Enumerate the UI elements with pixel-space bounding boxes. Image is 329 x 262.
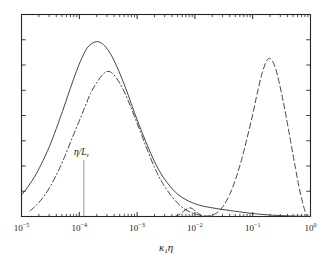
figure-background — [0, 0, 329, 262]
plot-canvas: η/Lε 10−510−410−310−210−1100 κ1η — [0, 0, 329, 262]
figure-root: η/Lε 10−510−410−310−210−1100 κ1η — [0, 0, 329, 262]
